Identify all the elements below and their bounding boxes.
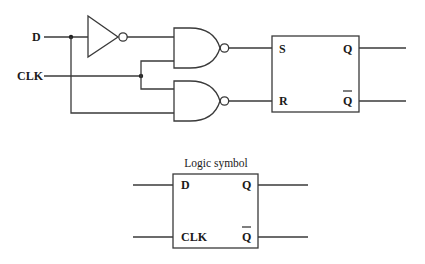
logic-symbol-title: Logic symbol bbox=[184, 157, 248, 170]
d-latch-diagram: D CLK S R Q Q Logic symbol D CLK Q Q bbox=[0, 0, 425, 264]
clk-branch-wire bbox=[141, 61, 174, 89]
sr-qbar-label: Q bbox=[343, 94, 352, 108]
symbol-q-label: Q bbox=[242, 178, 251, 192]
nand-gate-1 bbox=[174, 28, 220, 68]
clk-input-label: CLK bbox=[17, 69, 44, 83]
symbol-qbar-label: Q bbox=[242, 230, 251, 244]
nand1-bubble-icon bbox=[220, 44, 228, 52]
symbol-d-label: D bbox=[181, 178, 190, 192]
symbol-clk-label: CLK bbox=[181, 230, 208, 244]
nand-gate-2 bbox=[174, 81, 220, 121]
sr-s-label: S bbox=[279, 42, 286, 56]
nand2-bubble-icon bbox=[220, 97, 228, 105]
d-to-nand2-wire bbox=[71, 37, 174, 113]
sr-r-label: R bbox=[279, 94, 288, 108]
inverter-gate bbox=[88, 16, 118, 57]
sr-q-label: Q bbox=[343, 42, 352, 56]
d-input-label: D bbox=[32, 30, 41, 44]
inverter-bubble-icon bbox=[119, 33, 127, 41]
